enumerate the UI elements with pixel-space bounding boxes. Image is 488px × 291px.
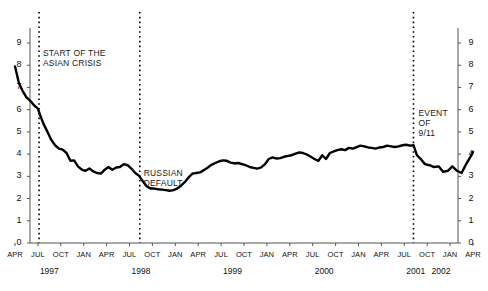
x-tick-label-20: APR <box>458 250 488 259</box>
annotation-event-of-911: EVENT OF 9/11 <box>418 108 447 138</box>
event-lines-group <box>39 12 413 243</box>
chart-container: 0123456789 0123456789 APRJULOCTJANAPRJUL… <box>0 0 488 291</box>
y-tick-label-left-5: 5 <box>12 126 26 136</box>
y-tick-label-left-6: 6 <box>12 104 26 114</box>
y-tick-label-left-3: 3 <box>12 170 26 180</box>
series-line-spread <box>15 66 473 190</box>
x-axis-year-2000: 2000 <box>304 266 344 276</box>
y-tick-label-right-3: 3 <box>464 170 478 180</box>
y-tick-label-left-4: 4 <box>12 148 26 158</box>
y-tick-label-right-1: 1 <box>464 215 478 225</box>
chart-plot-svg <box>0 0 488 291</box>
y-tick-label-right-4: 4 <box>464 148 478 158</box>
y-tick-label-left-1: 1 <box>12 215 26 225</box>
y-tick-label-left-2: 2 <box>12 193 26 203</box>
y-tick-label-left-8: 8 <box>12 59 26 69</box>
y-tick-label-right-8: 8 <box>464 59 478 69</box>
y-tick-label-right-2: 2 <box>464 193 478 203</box>
y-tick-label-left-0: 0 <box>12 237 26 247</box>
x-axis-year-2002: 2002 <box>421 266 461 276</box>
annotation-start-of-asian-crisis: START OF THE ASIAN CRISIS <box>43 48 106 68</box>
x-axis-year-1998: 1998 <box>121 266 161 276</box>
y-tick-label-right-0: 0 <box>464 237 478 247</box>
y-tick-label-left-9: 9 <box>12 37 26 47</box>
y-tick-label-left-7: 7 <box>12 81 26 91</box>
y-tick-label-right-7: 7 <box>464 81 478 91</box>
x-axis-year-1999: 1999 <box>213 266 253 276</box>
annotation-russian-default: RUSSIAN DEFAULT <box>144 168 183 188</box>
y-tick-label-right-5: 5 <box>464 126 478 136</box>
data-series-group <box>15 66 473 190</box>
x-axis-year-1997: 1997 <box>29 266 69 276</box>
y-tick-label-right-6: 6 <box>464 104 478 114</box>
y-tick-label-right-9: 9 <box>464 37 478 47</box>
